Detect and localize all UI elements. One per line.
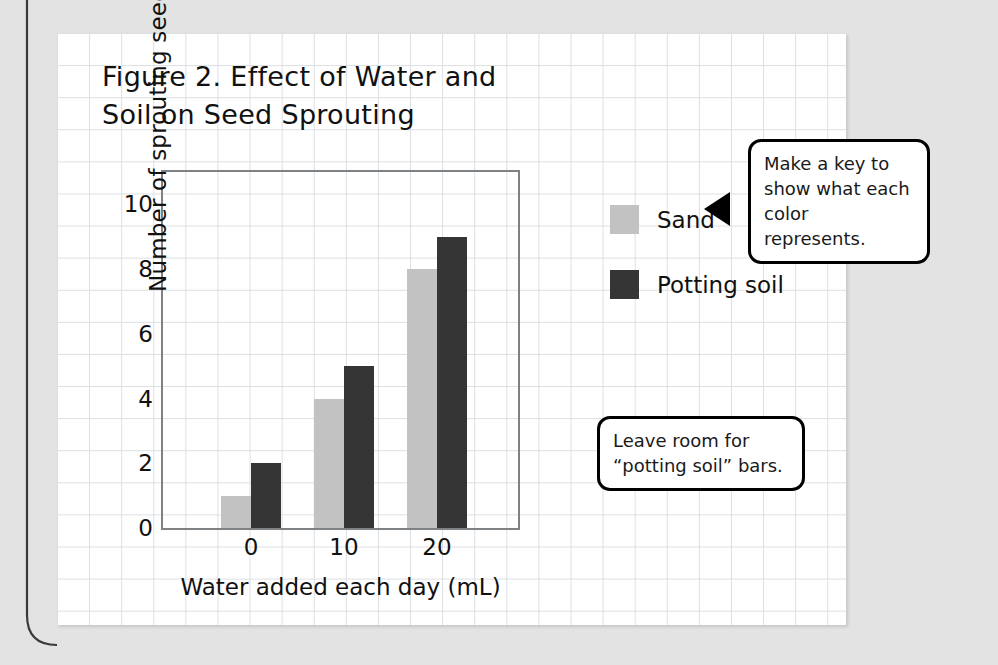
y-axis-title: Number of sprouting seeds (145, 0, 171, 292)
x-axis-tick-label: 10 (314, 534, 374, 560)
y-axis-tick-label: 4 (113, 386, 153, 412)
x-axis-tick-label: 20 (407, 534, 467, 560)
y-axis-tick-label: 2 (113, 450, 153, 476)
y-axis-tick-label: 10 (113, 191, 153, 217)
chart-plot-area (163, 172, 518, 528)
callout-pointer-arrow-icon (704, 192, 730, 226)
legend-swatch-potting-soil-icon (610, 270, 639, 299)
bar-potting-soil (251, 463, 281, 528)
legend-swatch-sand-icon (610, 205, 639, 234)
y-axis-tick-label: 0 (113, 515, 153, 541)
bar-potting-soil (437, 237, 467, 528)
bar-sand (221, 496, 251, 528)
legend-item-potting-soil: Potting soil (610, 270, 784, 299)
callout-leave-room: Leave room for “potting soil” bars. (597, 416, 805, 491)
legend-label-potting-soil: Potting soil (657, 272, 784, 298)
x-axis-tick-label: 0 (221, 534, 281, 560)
bar-potting-soil (344, 366, 374, 528)
y-axis-tick-label: 8 (113, 256, 153, 282)
page-edge-curve (0, 0, 60, 665)
bar-sand (314, 399, 344, 528)
bar-sand (407, 269, 437, 528)
chart-plot-frame: Number of sprouting seeds Water added ea… (161, 170, 520, 530)
callout-make-a-key: Make a key to show what each color repre… (748, 139, 930, 264)
x-axis-title: Water added each day (mL) (180, 574, 500, 600)
y-axis-tick-label: 6 (113, 321, 153, 347)
graph-paper-sheet: Figure 2. Effect of Water and Soil on Se… (57, 33, 846, 625)
figure-title: Figure 2. Effect of Water and Soil on Se… (102, 58, 582, 134)
